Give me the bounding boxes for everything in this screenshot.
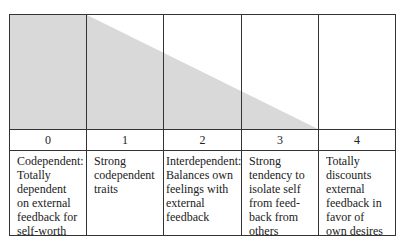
scale-description-0: Codependent:Totallydependenton externalf… [10, 154, 86, 238]
scale-description-1: Strongcodependenttraits [87, 154, 163, 196]
row-divider [10, 150, 395, 151]
scale-number-2: 2 [164, 130, 241, 150]
scale-number-0: 0 [10, 130, 86, 150]
scale-description-2: Interdependent:Balances ownfeelings with… [164, 154, 241, 224]
scale-number-3: 3 [242, 130, 318, 150]
column-divider [86, 15, 87, 235]
scale-description-3: Strongtendency toisolate selffrom feed-b… [242, 154, 318, 238]
scale-description-4: Totallydiscountsexternalfeedback infavor… [319, 154, 395, 238]
codependency-scale-table: 0 1 2 3 4 Codependent:Totallydependenton… [9, 14, 396, 236]
scale-number-1: 1 [87, 130, 163, 150]
scale-number-4: 4 [319, 130, 395, 150]
shaded-gradient-triangle [10, 15, 395, 129]
